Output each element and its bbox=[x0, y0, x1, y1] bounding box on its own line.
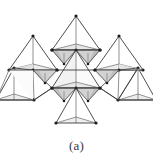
figure-container: (a) bbox=[0, 0, 153, 164]
figure-caption: (a) bbox=[0, 138, 153, 154]
tetrahedral-lattice-diagram bbox=[0, 0, 153, 140]
